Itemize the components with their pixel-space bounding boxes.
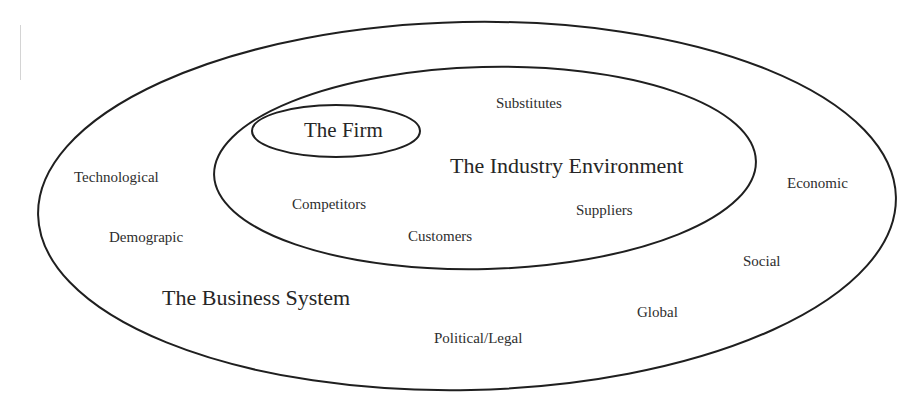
demographic-label: Demograpic [109,230,183,245]
suppliers-label: Suppliers [576,203,633,218]
global-label: Global [637,305,678,320]
economic-label: Economic [787,176,848,191]
competitors-label: Competitors [292,197,366,212]
business-system-label: The Business System [162,287,350,309]
business-environment-diagram: The Firm The Industry Environment The Bu… [0,0,920,405]
firm-label: The Firm [304,120,383,141]
customers-label: Customers [408,229,472,244]
social-label: Social [743,254,781,269]
political-legal-label: Political/Legal [434,331,522,346]
technological-label: Technological [74,170,159,185]
substitutes-label: Substitutes [496,96,562,111]
industry-environment-label: The Industry Environment [450,155,683,177]
